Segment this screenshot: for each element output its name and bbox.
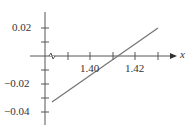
- y-tick-label: 0.02: [12, 21, 31, 33]
- x-axis-arrow-icon: [170, 53, 177, 59]
- x-tick-label: 1.40: [80, 62, 99, 74]
- y-tick-label: −0.04: [4, 105, 29, 117]
- y-tick-label: −0.02: [4, 77, 29, 89]
- axis-break-icon: [49, 53, 55, 59]
- x-tick-label: 1.42: [125, 62, 144, 74]
- x-axis-label: x: [180, 48, 185, 60]
